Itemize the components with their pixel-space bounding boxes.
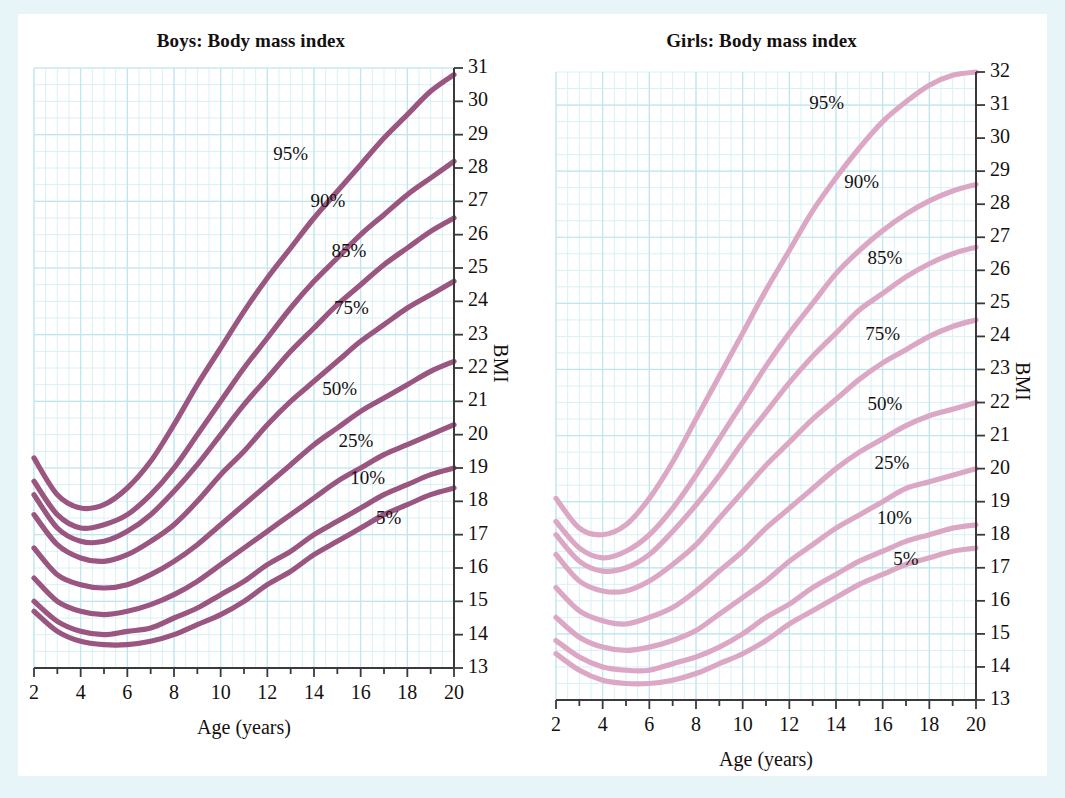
curve-label-75pct: 75% [856, 323, 910, 345]
ytick-label: 20 [468, 422, 488, 445]
ytick-label: 23 [990, 356, 1010, 379]
bmi-chart-page: Boys: Body mass index 131415161718192021… [0, 0, 1065, 798]
curve-label-95pct: 95% [800, 92, 854, 114]
boys-chart-title: Boys: Body mass index [0, 30, 506, 52]
xtick-label: 6 [629, 713, 669, 736]
ytick-label: 18 [468, 488, 488, 511]
xtick-label: 4 [583, 713, 623, 736]
curve-label-75pct: 75% [324, 297, 378, 319]
xtick-label: 8 [676, 713, 716, 736]
curve-label-25pct: 25% [329, 430, 383, 452]
xtick-label: 20 [434, 681, 474, 704]
curve-label-85pct: 85% [858, 247, 912, 269]
curve-label-90pct: 90% [835, 171, 889, 193]
xtick-label: 14 [294, 681, 334, 704]
ytick-label: 18 [990, 522, 1010, 545]
curve-label-25pct: 25% [865, 452, 919, 474]
ytick-label: 26 [468, 222, 488, 245]
chart-canvas: Boys: Body mass index 131415161718192021… [18, 14, 1047, 776]
curve-label-90pct: 90% [301, 190, 355, 212]
boys-chart-panel: Boys: Body mass index 131415161718192021… [18, 14, 528, 776]
xtick-label: 12 [247, 681, 287, 704]
girls-chart-panel: Girls: Body mass index 13141516171819202… [536, 14, 1047, 776]
ytick-label: 17 [468, 522, 488, 545]
xtick-label: 20 [956, 713, 996, 736]
ytick-label: 28 [990, 191, 1010, 214]
ytick-label: 28 [468, 155, 488, 178]
ytick-label: 27 [468, 188, 488, 211]
ytick-label: 15 [468, 588, 488, 611]
xtick-label: 18 [387, 681, 427, 704]
xtick-label: 4 [61, 681, 101, 704]
curve-label-50pct: 50% [313, 378, 367, 400]
xtick-label: 2 [536, 713, 576, 736]
ytick-label: 25 [468, 255, 488, 278]
curve-label-95pct: 95% [264, 143, 318, 165]
xtick-label: 14 [816, 713, 856, 736]
ytick-label: 22 [990, 390, 1010, 413]
ytick-label: 24 [990, 323, 1010, 346]
xtick-label: 10 [201, 681, 241, 704]
ytick-label: 27 [990, 224, 1010, 247]
xtick-label: 10 [723, 713, 763, 736]
ytick-label: 30 [468, 88, 488, 111]
ytick-label: 14 [990, 654, 1010, 677]
curve-label-5pct: 5% [879, 548, 933, 570]
curve-label-10pct: 10% [341, 467, 395, 489]
ytick-label: 13 [990, 687, 1010, 710]
boys-plot-area [34, 68, 454, 668]
curve-label-85pct: 85% [322, 240, 376, 262]
xtick-label: 16 [863, 713, 903, 736]
ytick-label: 17 [990, 555, 1010, 578]
ytick-label: 24 [468, 288, 488, 311]
ytick-label: 29 [990, 158, 1010, 181]
girls-plot-area [556, 72, 976, 700]
ytick-label: 25 [990, 290, 1010, 313]
xtick-label: 12 [769, 713, 809, 736]
ytick-label: 19 [990, 489, 1010, 512]
curve-label-10pct: 10% [867, 507, 921, 529]
boys-xaxis-title: Age (years) [174, 716, 314, 739]
xtick-label: 16 [341, 681, 381, 704]
ytick-label: 32 [990, 59, 1010, 82]
ytick-label: 29 [468, 122, 488, 145]
ytick-label: 31 [990, 92, 1010, 115]
grid-minor [556, 72, 976, 700]
boys-yaxis-title: BMI [489, 344, 512, 383]
ytick-label: 14 [468, 622, 488, 645]
ytick-label: 16 [468, 555, 488, 578]
xtick-label: 18 [909, 713, 949, 736]
ytick-label: 15 [990, 621, 1010, 644]
curve-label-5pct: 5% [362, 507, 416, 529]
ytick-label: 30 [990, 125, 1010, 148]
xtick-label: 2 [14, 681, 54, 704]
ytick-label: 19 [468, 455, 488, 478]
ytick-label: 23 [468, 322, 488, 345]
ytick-label: 31 [468, 55, 488, 78]
ytick-label: 21 [990, 423, 1010, 446]
girls-xaxis-title: Age (years) [696, 748, 836, 771]
ytick-label: 20 [990, 456, 1010, 479]
ytick-label: 16 [990, 588, 1010, 611]
xtick-label: 6 [107, 681, 147, 704]
girls-chart-title: Girls: Body mass index [506, 30, 1017, 52]
curve-label-50pct: 50% [858, 393, 912, 415]
boys-plot-svg [34, 68, 454, 668]
xtick-label: 8 [154, 681, 194, 704]
girls-yaxis-title: BMI [1011, 362, 1034, 401]
ytick-label: 26 [990, 257, 1010, 280]
ytick-label: 21 [468, 388, 488, 411]
ytick-label: 13 [468, 655, 488, 678]
ytick-label: 22 [468, 355, 488, 378]
girls-plot-svg [556, 72, 976, 700]
